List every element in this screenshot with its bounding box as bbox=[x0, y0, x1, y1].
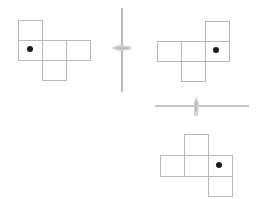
net-cell bbox=[161, 156, 185, 177]
net-cell bbox=[182, 62, 206, 82]
reflection-diagram bbox=[0, 0, 264, 199]
dot-marker bbox=[213, 47, 219, 53]
net-cell bbox=[185, 156, 209, 177]
net-cell bbox=[182, 42, 206, 62]
arrow-left-icon bbox=[111, 45, 131, 51]
net-cell bbox=[43, 41, 67, 61]
arrow-vertical-icon bbox=[194, 96, 199, 116]
net-cell bbox=[209, 177, 233, 197]
net-reflected-vertical bbox=[158, 22, 230, 82]
net-cell bbox=[206, 22, 230, 42]
net-cell bbox=[43, 61, 67, 81]
net-cell bbox=[185, 135, 209, 156]
net-cell bbox=[158, 42, 182, 62]
net-cell bbox=[19, 21, 43, 41]
net-cell bbox=[67, 41, 91, 61]
dot-marker bbox=[216, 162, 222, 168]
dot-marker bbox=[27, 46, 33, 52]
